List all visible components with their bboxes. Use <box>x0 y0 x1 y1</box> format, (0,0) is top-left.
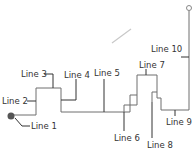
label-line-8: Line 8 <box>147 140 173 150</box>
label-line-1: Line 1 <box>31 121 57 131</box>
label-line-6: Line 6 <box>114 133 140 143</box>
line-diagram: Line 1 Line 2 Line 3 Line 4 Line 5 Line … <box>0 0 196 155</box>
label-line-7: Line 7 <box>139 60 165 70</box>
start-dot-icon <box>8 113 15 120</box>
label-line-10: Line 10 <box>151 44 182 54</box>
stray-stroke <box>112 29 131 43</box>
leader-line-1 <box>15 118 30 126</box>
end-circle-icon <box>187 6 192 11</box>
label-line-4: Line 4 <box>64 70 90 80</box>
label-line-3: Line 3 <box>21 69 47 79</box>
label-line-2: Line 2 <box>2 96 28 106</box>
leader-line-4 <box>61 79 76 100</box>
route-stub-line-8 <box>152 92 157 102</box>
label-line-9: Line 9 <box>166 117 192 127</box>
label-line-5: Line 5 <box>94 68 120 78</box>
